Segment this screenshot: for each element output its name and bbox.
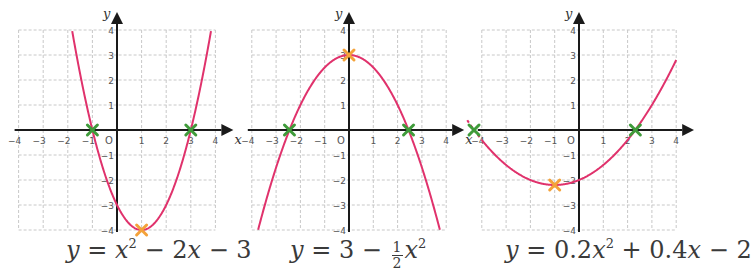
y-tick-label: 4 [570, 26, 576, 36]
fraction-one-half: 12 [392, 240, 403, 271]
graph-2: xy−4−3−2−11234−4−3−2−11234O [241, 6, 473, 236]
y-tick-label: −1 [101, 151, 114, 161]
x-tick-label: 3 [649, 136, 655, 146]
x-tick-label: 1 [370, 136, 376, 146]
x-tick-label: −4 [8, 136, 22, 146]
x-axis-arrow-icon [682, 124, 694, 136]
y-tick-label: 1 [340, 101, 346, 111]
x-tick-label: −1 [314, 136, 327, 146]
x-tick-label: 4 [443, 136, 449, 146]
equation-label-3: y = 0.2x2 + 0.4x − 2 [505, 236, 752, 264]
x-tick-label: 1 [139, 136, 145, 146]
y-tick-label: −2 [333, 176, 346, 186]
x-tick-label: −2 [520, 136, 533, 146]
y-axis-arrow-icon [573, 12, 585, 24]
graph-1: xy−4−3−2−11234−4−3−2−11234O [8, 6, 242, 236]
x-tick-label: 4 [673, 136, 679, 146]
x-tick-label: −3 [33, 136, 46, 146]
y-tick-label: −4 [563, 226, 577, 236]
y-axis-label: y [334, 6, 343, 21]
x-tick-label: 2 [163, 136, 169, 146]
x-tick-label: −3 [495, 136, 508, 146]
y-tick-label: 3 [570, 51, 576, 61]
y-tick-label: 1 [570, 101, 576, 111]
x-tick-label: 2 [395, 136, 401, 146]
x-tick-label: −4 [241, 136, 255, 146]
x-tick-label: −3 [265, 136, 278, 146]
x-tick-label: −2 [290, 136, 303, 146]
y-tick-label: 4 [340, 26, 346, 36]
y-tick-label: −4 [333, 226, 347, 236]
y-tick-label: 1 [108, 101, 114, 111]
origin-label: O [337, 135, 345, 146]
y-tick-label: 2 [340, 76, 346, 86]
x-axis-arrow-icon [452, 124, 464, 136]
x-tick-label: −2 [57, 136, 70, 146]
y-tick-label: −3 [101, 201, 114, 211]
x-tick-label: 1 [600, 136, 606, 146]
y-axis-arrow-icon [343, 12, 355, 24]
x-tick-label: 4 [213, 136, 219, 146]
graph-3: xy−4−3−2−11234−4−3−2−11234O [467, 6, 694, 236]
y-tick-label: 2 [108, 76, 114, 86]
root-marker-icon [469, 125, 479, 135]
y-tick-label: −1 [563, 151, 576, 161]
x-axis-arrow-icon [221, 124, 233, 136]
y-axis-label: y [102, 6, 111, 21]
x-tick-label: −1 [544, 136, 557, 146]
y-axis-label: y [564, 6, 573, 21]
y-tick-label: −3 [333, 201, 346, 211]
origin-label: O [105, 135, 113, 146]
y-tick-label: 2 [570, 76, 576, 86]
equation-label-2: y = 3 − 12x2 [290, 236, 426, 271]
y-tick-label: 4 [108, 26, 114, 36]
y-tick-label: −4 [101, 226, 115, 236]
x-tick-label: 3 [419, 136, 425, 146]
x-tick-label: −1 [82, 136, 95, 146]
y-axis-arrow-icon [111, 12, 123, 24]
y-tick-label: 3 [108, 51, 114, 61]
y-tick-label: −1 [333, 151, 346, 161]
equation-label-1: y = x2 − 2x − 3 [66, 236, 252, 264]
origin-label: O [567, 135, 575, 146]
y-tick-label: −3 [563, 201, 576, 211]
